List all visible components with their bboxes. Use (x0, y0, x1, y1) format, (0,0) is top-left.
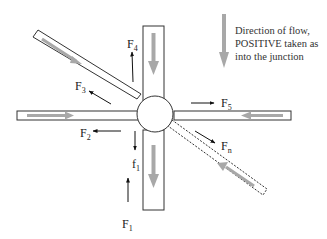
label-F3: F3 (75, 79, 86, 95)
label-F4: F4 (127, 37, 138, 53)
pipe-top (143, 26, 164, 101)
legend-text: Direction of flow, POSITIVE taken as int… (235, 24, 318, 63)
pipe-right (174, 111, 291, 120)
pipe-lower-right-dashed (168, 120, 267, 195)
pipe-left (17, 111, 139, 120)
junction-node (137, 96, 173, 132)
legend-line-3: into the junction (235, 50, 318, 63)
force-arrow-F3 (89, 91, 111, 104)
label-f1: f1 (132, 157, 140, 173)
legend-flow-arrow-icon (219, 14, 229, 68)
label-Fn: Fn (221, 139, 232, 155)
label-F2: F2 (80, 126, 91, 142)
pipe-upper-left (33, 30, 141, 99)
legend-line-2: POSITIVE taken as (235, 37, 318, 50)
label-F5: F5 (221, 96, 232, 112)
pipe-bottom (143, 130, 164, 210)
force-arrow-F4 (132, 52, 133, 82)
label-F1: F1 (122, 217, 133, 233)
legend-line-1: Direction of flow, (235, 24, 318, 37)
